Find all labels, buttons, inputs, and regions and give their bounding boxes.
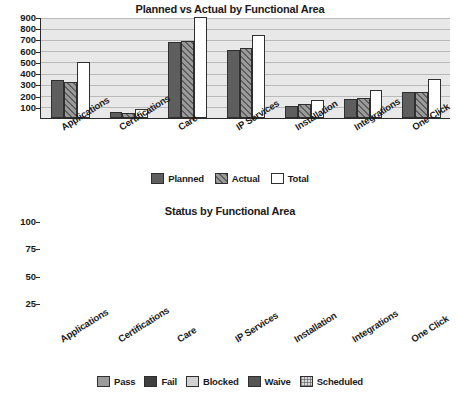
- legend-swatch-actual: [215, 173, 228, 184]
- x-axis-label-certifications: Certifications: [116, 304, 171, 344]
- y-axis-tick-mark-50: [36, 277, 40, 278]
- legend-label-waive: Waive: [265, 376, 291, 387]
- legend-swatch-blocked: [186, 376, 199, 387]
- legend-swatch-pass: [97, 376, 110, 387]
- bar-group-applications: [51, 18, 90, 118]
- legend-swatch-scheduled: [300, 376, 313, 387]
- top-chart-legend: PlannedActualTotal: [0, 173, 460, 184]
- bar-planned-ip-services: [227, 50, 240, 118]
- y-axis-tick-mark-600: [36, 52, 40, 53]
- bottom-chart-legend: PassFailBlockedWaiveScheduled: [0, 376, 460, 387]
- legend-swatch-fail: [144, 376, 157, 387]
- y-axis-tick-mark-200: [36, 97, 40, 98]
- bar-total-care: [194, 17, 207, 118]
- bar-planned-certifications: [110, 112, 123, 118]
- y-axis-tick-mark-400: [36, 74, 40, 75]
- y-axis-tick-600: 600: [8, 46, 36, 57]
- bar-group-care: [168, 18, 207, 118]
- legend-swatch-total: [271, 173, 284, 184]
- bar-planned-one-click: [402, 92, 415, 118]
- y-axis-tick-800: 800: [8, 23, 36, 34]
- legend-label-total: Total: [288, 173, 309, 184]
- bar-planned-integrations: [344, 99, 357, 118]
- y-axis-tick-200: 200: [8, 91, 36, 102]
- legend-item-pass: Pass: [97, 376, 135, 387]
- bottom-chart-title: Status by Functional Area: [0, 205, 460, 217]
- bar-planned-installation: [285, 106, 298, 118]
- y-axis-tick-400: 400: [8, 68, 36, 79]
- y-axis-tick-mark-900: [36, 18, 40, 19]
- y-axis-tick-mark-100: [36, 108, 40, 109]
- legend-label-actual: Actual: [232, 173, 260, 184]
- x-axis-label-installation: Installation: [292, 310, 338, 345]
- planned-vs-actual-chart-panel: Planned vs Actual by Functional Area 100…: [0, 0, 460, 200]
- legend-item-fail: Fail: [144, 376, 177, 387]
- bar-planned-applications: [51, 80, 64, 118]
- y-axis-tick-mark-800: [36, 29, 40, 30]
- x-axis-label-ip-services: IP Services: [233, 309, 280, 344]
- bar-actual-ip-services: [240, 48, 253, 118]
- y-axis-tick-300: 300: [8, 79, 36, 90]
- x-axis-label-applications: Applications: [58, 306, 110, 344]
- legend-item-total: Total: [271, 173, 309, 184]
- y-axis-tick-75: 75: [8, 243, 36, 254]
- y-axis-tick-mark-700: [36, 40, 40, 41]
- bar-group-one-click: [402, 18, 441, 118]
- bar-group-integrations: [344, 18, 383, 118]
- legend-label-blocked: Blocked: [203, 376, 239, 387]
- legend-item-waive: Waive: [248, 376, 291, 387]
- y-axis-tick-50: 50: [8, 271, 36, 282]
- x-axis-label-one-click: One Click: [409, 313, 450, 345]
- legend-item-blocked: Blocked: [186, 376, 239, 387]
- bar-group-installation: [285, 18, 324, 118]
- legend-swatch-planned: [151, 173, 164, 184]
- y-axis-tick-mark-25: [36, 304, 40, 305]
- bar-group-certifications: [110, 18, 149, 118]
- y-axis-tick-mark-100: [36, 222, 40, 223]
- legend-label-scheduled: Scheduled: [317, 376, 363, 387]
- bar-group-ip-services: [227, 18, 266, 118]
- y-axis-tick-mark-300: [36, 85, 40, 86]
- y-axis-tick-mark-75: [36, 249, 40, 250]
- y-axis-tick-25: 25: [8, 298, 36, 309]
- legend-label-pass: Pass: [114, 376, 135, 387]
- y-axis-tick-100: 100: [8, 216, 36, 227]
- x-axis-label-care: Care: [175, 324, 198, 344]
- legend-label-planned: Planned: [168, 173, 204, 184]
- y-axis-tick-500: 500: [8, 57, 36, 68]
- legend-swatch-waive: [248, 376, 261, 387]
- bar-planned-care: [168, 42, 181, 118]
- y-axis-tick-700: 700: [8, 34, 36, 45]
- legend-item-scheduled: Scheduled: [300, 376, 363, 387]
- y-axis-tick-mark-500: [36, 63, 40, 64]
- legend-item-actual: Actual: [215, 173, 260, 184]
- x-axis-label-integrations: Integrations: [350, 307, 400, 344]
- y-axis-tick-100: 100: [8, 102, 36, 113]
- legend-item-planned: Planned: [151, 173, 204, 184]
- y-axis-tick-900: 900: [8, 12, 36, 23]
- bar-actual-care: [181, 41, 194, 118]
- legend-label-fail: Fail: [161, 376, 177, 387]
- top-chart-title: Planned vs Actual by Functional Area: [0, 3, 460, 15]
